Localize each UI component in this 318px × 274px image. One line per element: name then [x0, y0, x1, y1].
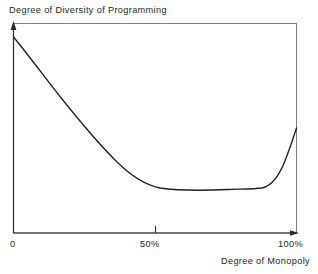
plot-area: 0 50% 100% [0, 0, 318, 274]
x-axis-title: Degree of Monopoly [221, 255, 310, 268]
plot-frame [14, 24, 297, 234]
y-axis-arrow-icon [11, 21, 17, 30]
chart-figure: Degree of Diversity of Programming 0 50%… [0, 0, 318, 274]
x-tick-label-0: 0 [10, 238, 15, 250]
x-tick-label-50: 50% [140, 238, 159, 250]
x-axis-arrow-icon [290, 230, 299, 236]
diversity-curve [14, 37, 297, 190]
x-tick-label-100: 100% [278, 238, 303, 250]
plot-svg [0, 0, 318, 274]
